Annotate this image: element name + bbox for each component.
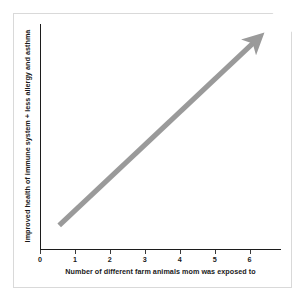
x-axis-label: Number of different farm animals mom was…	[40, 267, 281, 276]
x-tick-label-0: 0	[30, 255, 50, 264]
x-tick-label-4: 4	[170, 255, 190, 264]
x-tick-4	[180, 250, 181, 254]
y-axis-label: Improved health of immune system + less …	[20, 22, 34, 250]
x-tick-0	[40, 250, 41, 254]
x-tick-2	[110, 250, 111, 254]
plot-area: Improved health of immune system + less …	[0, 0, 306, 307]
y-axis-label-text: Improved health of immune system + less …	[23, 30, 32, 243]
x-tick-label-1: 1	[65, 255, 85, 264]
x-tick-label-6: 6	[240, 255, 260, 264]
x-tick-3	[145, 250, 146, 254]
figure-root: Improved health of immune system + less …	[0, 0, 306, 307]
x-tick-6	[250, 250, 251, 254]
y-axis-line	[40, 24, 41, 250]
x-tick-1	[75, 250, 76, 254]
x-tick-label-5: 5	[205, 255, 225, 264]
x-tick-label-3: 3	[135, 255, 155, 264]
x-tick-label-2: 2	[100, 255, 120, 264]
x-tick-5	[215, 250, 216, 254]
x-axis-line	[40, 249, 281, 250]
